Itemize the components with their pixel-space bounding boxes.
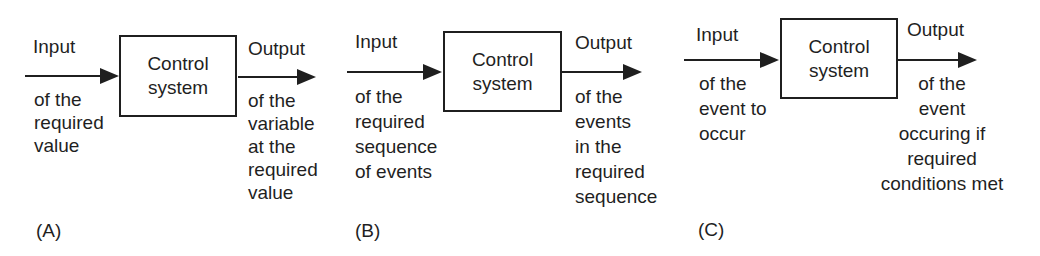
diagram-b-input-title: Input [355,31,397,52]
diagram-a-input-title: Input [33,36,75,57]
diagram-a-input-arrowhead-icon [100,68,119,84]
diagram-b-input-arrowhead-icon [423,64,442,80]
diagram-a-output-arrowhead-icon [297,69,316,85]
diagram-a-box-label: Control system [147,52,208,100]
diagram-b-output-description: of the events in the required sequence [575,84,657,209]
diagram-c-caption-label: (C) [698,219,724,241]
diagram-b-output-title: Output [575,32,632,53]
diagram-c-input-arrowhead-icon [760,52,779,68]
diagram-b-output-arrow-line [562,71,624,73]
diagram-b-box-label: Control system [472,48,533,96]
diagram-c-output-title: Output [907,19,964,40]
diagram-b-caption-label: (B) [355,220,380,242]
diagram-b-output-arrowhead-icon [623,64,642,80]
diagram-a-output-title: Output [248,38,305,59]
diagram-b-input-description: of the required sequence of events [355,84,437,184]
diagram-a-output-description: of the variable at the required value [248,89,318,204]
diagram-a-control-system-box: Control system [119,35,237,117]
diagram-a-input-arrow-line [25,75,101,77]
control-systems-figure: Input of the required value Control syst… [0,0,1040,256]
diagram-b-control-system-box: Control system [443,31,562,112]
diagram-c-output-arrowhead-icon [958,52,977,68]
diagram-a-output-arrow-line [238,76,298,78]
diagram-a-caption-label: (A) [36,220,61,242]
diagram-c-input-arrow-line [684,59,761,61]
diagram-b-input-arrow-line [347,71,424,73]
diagram-a-input-description: of the required value [34,88,104,157]
diagram-c-output-description: of the event occuring if required condit… [868,71,1016,196]
diagram-c-box-label: Control system [808,35,869,83]
diagram-c-output-arrow-line [898,59,959,61]
diagram-c-input-description: of the event to occur [699,71,767,146]
diagram-c-input-title: Input [696,24,738,45]
